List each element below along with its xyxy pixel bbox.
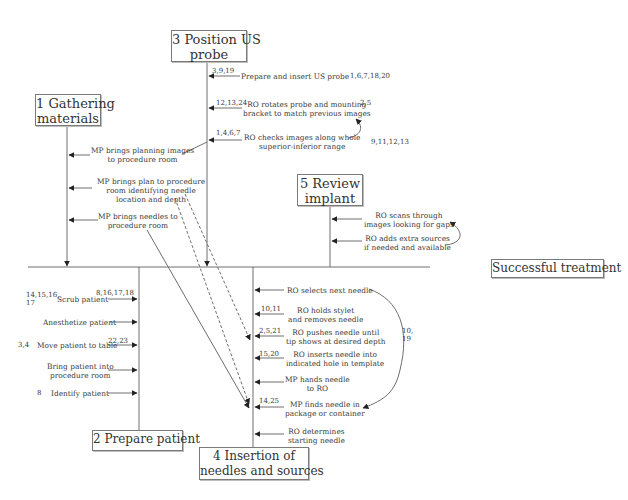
box-gathering-materials: 1 Gathering materials [35,94,101,126]
box-prepare-patient: 2 Prepare patient [92,430,183,451]
box-label: 5 Review [298,176,362,191]
step-ref-left: 3,4 [18,341,29,349]
insertion-step: MP finds needle inpackage or container [285,400,365,418]
box-label: probe [172,47,246,62]
step-ref-left: 3,9,19 [212,67,234,75]
step-ref-right: 1,6,7,18,20 [350,72,390,80]
step-ref-right: 22,23 [108,337,128,345]
box-successful-treatment: Successful treatment [491,259,604,278]
box-label: 2 Prepare patient [93,432,182,447]
prepare-step: Move patient to table [37,341,117,350]
step-ref-left: 15,20 [259,350,279,358]
box-insertion-needles-sources: 4 Insertion of needles and sources [199,447,309,480]
step-ref-left: 10,11 [261,305,281,313]
step-ref-left: 1,4,6,7 [216,129,241,137]
insertion-step: RO selects next needle [287,286,373,295]
figure-caption-clipped [0,495,628,500]
box-label: materials [36,111,100,126]
box-label: needles and sources [200,464,308,479]
step-ref-left: 14,15,16,17 [26,291,59,307]
gathering-step: MP brings plan to procedureroom identify… [97,177,205,204]
gathering-step: MP brings planning imagesto procedure ro… [91,146,194,164]
insertion-step: MP hands needleto RO [285,375,350,393]
step-ref-left: 8 [37,389,41,397]
insertion-step: RO inserts needle intoindicated hole in … [286,350,384,368]
insertion-step: RO holds styletand removes needle [288,306,363,324]
step-ref-left: 2,5,21 [259,327,281,335]
position-step: RO rotates probe and mountingbracket to … [243,100,371,118]
gathering-step: MP brings needles toprocedure room [98,212,178,230]
insertion-step: RO determinesstarting needle [288,427,345,445]
step-ref-left: 14,25 [259,397,279,405]
position-step: RO checks images along wholesuperior-inf… [244,133,360,151]
step-ref-right: 8,16,17,18 [96,289,134,297]
box-position-us-probe: 3 Position US probe [171,30,247,62]
box-label: 4 Insertion of [200,449,308,464]
position-step: Prepare and insert US probe [241,72,349,81]
insertion-step: RO pushes needle untiltip shows at desir… [286,328,385,346]
step-ref-right: 2,5 [360,99,371,107]
review-step: RO scans throughimages looking for gaps [364,211,454,229]
box-label: 1 Gathering [36,96,100,111]
box-label: implant [298,191,362,206]
prepare-step: Bring patient intoprocedure room [47,362,114,380]
review-step: RO adds extra sourcesif needed and avail… [364,234,451,252]
box-review-implant: 5 Review implant [297,174,363,206]
box-label: Successful treatment [492,261,603,276]
prepare-step: Anesthetize patient [43,318,116,327]
loop-ref: 10,19 [402,327,413,343]
step-ref-right: 9,11,12,13 [371,138,409,146]
box-label: 3 Position US [172,32,246,47]
prepare-step: Identify patient [51,389,109,398]
